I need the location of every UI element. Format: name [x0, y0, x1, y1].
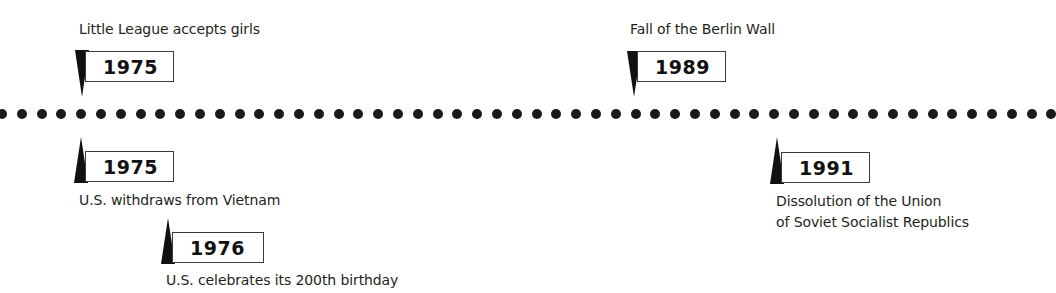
year-text: 1975: [103, 56, 158, 78]
timeline-dot: [373, 109, 383, 119]
timeline-dot: [37, 109, 47, 119]
timeline-dot: [848, 109, 858, 119]
timeline-dot: [809, 109, 819, 119]
timeline-dot: [631, 109, 641, 119]
timeline-dot: [947, 109, 957, 119]
timeline-dot: [611, 109, 621, 119]
timeline-dot: [650, 109, 660, 119]
timeline-dot: [413, 109, 423, 119]
year-text: 1975: [103, 156, 158, 178]
timeline-dot: [512, 109, 522, 119]
timeline-dot: [571, 109, 581, 119]
timeline-dot: [730, 109, 740, 119]
timeline-dot: [749, 109, 759, 119]
year-box: 1975: [85, 51, 174, 82]
timeline-dot: [294, 109, 304, 119]
timeline-dot: [136, 109, 146, 119]
event-label-ussr-line2: of Soviet Socialist Republics: [776, 213, 969, 232]
timeline-dot: [789, 109, 799, 119]
timeline-dot: [175, 109, 185, 119]
event-label-ussr-line1: Dissolution of the Union: [776, 192, 941, 211]
event-label-berlin-wall: Fall of the Berlin Wall: [630, 20, 775, 39]
timeline-dot: [1046, 109, 1056, 119]
timeline-dot: [76, 109, 86, 119]
timeline-dot: [17, 109, 27, 119]
timeline-dot: [334, 109, 344, 119]
timeline-dot: [393, 109, 403, 119]
timeline-dot: [353, 109, 363, 119]
timeline-dot: [1027, 109, 1037, 119]
timeline-dot: [254, 109, 264, 119]
year-box: 1989: [637, 51, 726, 82]
year-text: 1989: [655, 56, 710, 78]
timeline-dot: [155, 109, 165, 119]
year-box: 1976: [172, 232, 264, 263]
timeline-dot: [96, 109, 106, 119]
timeline-dot: [195, 109, 205, 119]
timeline-dot: [591, 109, 601, 119]
timeline-dot: [967, 109, 977, 119]
event-label-bicentennial: U.S. celebrates its 200th birthday: [166, 271, 398, 290]
timeline-dot: [908, 109, 918, 119]
timeline-dot: [215, 109, 225, 119]
timeline-dot: [492, 109, 502, 119]
year-box: 1991: [781, 152, 870, 183]
timeline-dot: [472, 109, 482, 119]
timeline-dot: [987, 109, 997, 119]
timeline-dot: [868, 109, 878, 119]
timeline-dot: [1007, 109, 1017, 119]
event-label-vietnam: U.S. withdraws from Vietnam: [79, 191, 280, 210]
timeline-dot: [769, 109, 779, 119]
timeline-dot: [452, 109, 462, 119]
timeline-dot: [0, 109, 7, 119]
timeline-dot: [888, 109, 898, 119]
year-text: 1991: [799, 157, 854, 179]
event-label-little-league: Little League accepts girls: [79, 20, 260, 39]
timeline-dot: [670, 109, 680, 119]
timeline-dotted-line: [0, 109, 1053, 120]
timeline-dot: [116, 109, 126, 119]
timeline-dot: [433, 109, 443, 119]
timeline-dot: [710, 109, 720, 119]
timeline-dot: [532, 109, 542, 119]
year-box: 1975: [85, 151, 174, 182]
flag-pointer-up-icon: [0, 0, 1, 1]
year-text: 1976: [190, 237, 245, 259]
timeline-dot: [928, 109, 938, 119]
timeline-dot: [829, 109, 839, 119]
timeline-dot: [551, 109, 561, 119]
timeline-dot: [235, 109, 245, 119]
timeline-dot: [56, 109, 66, 119]
timeline-dot: [314, 109, 324, 119]
timeline-dot: [274, 109, 284, 119]
timeline-dot: [690, 109, 700, 119]
